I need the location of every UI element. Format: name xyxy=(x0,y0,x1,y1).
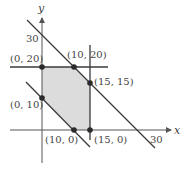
vertex-0-20 xyxy=(39,64,45,70)
vertex-label-15-0: (15, 0) xyxy=(94,134,127,145)
x-axis-label: x xyxy=(174,124,181,137)
vertex-label-10-0: (10, 0) xyxy=(45,134,78,145)
vertex-15-0 xyxy=(87,127,93,133)
vertex-label-15-15: (15, 15) xyxy=(94,76,134,87)
x-tick-30: 30 xyxy=(150,134,163,145)
vertex-10-20 xyxy=(71,64,77,70)
vertex-10-0 xyxy=(71,127,77,133)
vertex-label-10-20: (10, 20) xyxy=(67,49,107,60)
vertex-label-0-20: (0, 20) xyxy=(10,53,43,64)
vertex-15-15 xyxy=(87,80,93,86)
y-axis-label: y xyxy=(37,2,45,15)
feasible-region-diagram: y x 30 30 (0, 20) (10, 20) (15, 15) (0, … xyxy=(0,0,187,175)
y-tick-30: 30 xyxy=(26,33,39,44)
vertex-label-0-10: (0, 10) xyxy=(10,99,43,110)
